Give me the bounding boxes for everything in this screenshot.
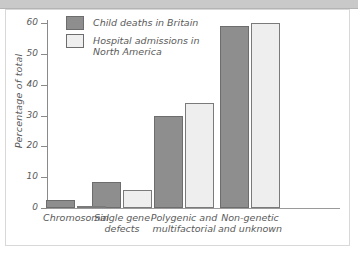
y-axis-tick-label: 40: [12, 80, 38, 89]
y-axis-tick-label-text: 50: [16, 49, 38, 58]
y-axis-tick-label-text: 60: [16, 18, 38, 27]
bar: [92, 182, 121, 208]
chart-figure: Percentage of total 0102030405060 Chromo…: [0, 0, 358, 255]
bar: [46, 200, 75, 208]
legend-label: Child deaths in Britain: [93, 16, 198, 28]
y-axis-tick-label-text: 40: [16, 80, 38, 89]
y-axis-tick-label: 30: [12, 111, 38, 120]
legend-item: Child deaths in Britain: [66, 16, 246, 30]
y-axis-tick-label-text: 20: [16, 141, 38, 150]
y-axis-tick-label: 20: [12, 141, 38, 150]
bar: [251, 23, 280, 208]
legend-label: Hospital admissions in North America: [93, 34, 200, 57]
chart-legend: Child deaths in BritainHospital admissio…: [66, 16, 246, 61]
legend-swatch: [66, 34, 84, 48]
y-axis-tick-label: 60: [12, 18, 38, 27]
bar: [123, 190, 152, 209]
bar: [185, 103, 214, 208]
y-axis-tick-label-text: 10: [16, 172, 38, 181]
legend-swatch: [66, 16, 84, 30]
y-axis-title: Percentage of total: [14, 46, 24, 156]
legend-item: Hospital admissions in North America: [66, 34, 246, 57]
y-axis-tick-label: 0: [12, 203, 38, 212]
y-axis-tick-label: 10: [12, 172, 38, 181]
bar: [77, 206, 106, 208]
y-axis-tick-label-text: 0: [16, 203, 38, 212]
cropped-header-band: [0, 0, 358, 9]
x-axis-category-label: Non-genetic and unknown: [204, 212, 296, 234]
bar: [154, 116, 183, 209]
y-axis-tick-label: 50: [12, 49, 38, 58]
y-axis-tick: [41, 208, 47, 209]
x-axis-line: [47, 208, 340, 209]
y-axis-tick-label-text: 30: [16, 111, 38, 120]
